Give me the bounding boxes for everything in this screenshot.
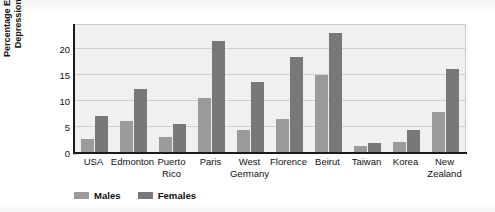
bar-usa-males [81,139,95,153]
bar-puerto-rico-females [173,124,187,153]
x-label-line-2: Rico [133,168,211,180]
y-axis-title-line-1: Percentage Experiencing Major [2,0,13,58]
gridline-20 [75,48,465,49]
y-axis-title: Percentage Experiencing Major Depression… [2,0,42,58]
page-scan-shading-bottom [0,202,495,212]
y-axis-title-line-2: Depression during Lifetime [13,0,24,58]
y-axis-ticks: 05101520 [40,24,70,154]
bar-west-germany-males [237,130,251,153]
chart-legend: Males Females [74,190,196,201]
gridline-15 [75,74,465,75]
legend-label-males: Males [94,190,121,201]
bar-edmonton-females [134,89,148,153]
legend-swatch-females-icon [138,192,153,199]
x-label-new-zealand: NewZealand [406,156,484,179]
bar-west-germany-females [251,82,265,153]
y-tick-label-20: 20 [44,43,70,54]
legend-item-males: Males [74,190,121,201]
x-axis-line [73,152,467,154]
x-label-line-1: New [435,156,454,167]
bar-florence-males [276,119,290,153]
bar-puerto-rico-males [159,137,173,153]
bar-paris-females [212,41,226,153]
page-scan-shading-top [0,0,495,14]
y-tick-label-15: 15 [44,69,70,80]
bar-usa-females [95,116,109,153]
bar-beirut-males [315,75,329,153]
bar-florence-females [290,57,304,153]
legend-swatch-males-icon [74,192,89,199]
y-tick-label-5: 5 [44,121,70,132]
bar-chart-figure: Percentage Experiencing Major Depression… [0,0,495,212]
bar-beirut-females [329,33,343,153]
plot-area [74,24,466,153]
x-label-line-2: Germany [211,168,289,180]
y-axis-line [73,24,75,154]
bar-korea-females [407,130,421,153]
bar-edmonton-males [120,121,134,153]
bar-new-zealand-females [446,69,460,153]
bar-paris-males [198,98,212,153]
y-tick-label-10: 10 [44,95,70,106]
x-axis-labels: USAEdmontonPuertoRicoParisWestGermanyFlo… [74,156,466,190]
x-label-line-2: Zealand [406,168,484,180]
legend-item-females: Females [138,190,196,201]
legend-label-females: Females [158,190,196,201]
bar-new-zealand-males [432,112,446,153]
plot-inner [75,25,465,153]
